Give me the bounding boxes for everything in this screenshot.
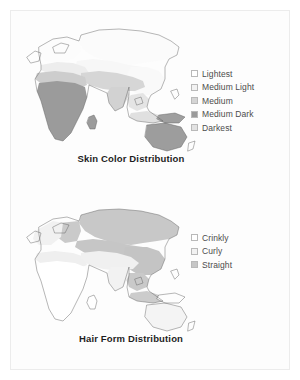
map-stage-hair-form: Crinkly Curly Straight [11, 193, 289, 333]
world-map-hair-form [19, 197, 209, 333]
legend-swatch-icon [191, 84, 198, 91]
figure-page-frame: Lightest Medium Light Medium Medium Dark… [10, 10, 290, 370]
legend-item[interactable]: Crinkly [191, 231, 277, 245]
legend-swatch-icon [191, 248, 198, 255]
legend-item[interactable]: Medium Dark [191, 108, 277, 122]
legend-swatch-icon [191, 261, 198, 268]
legend-item[interactable]: Lightest [191, 67, 277, 81]
legend-swatch-icon [191, 97, 198, 104]
world-map-skin-color [19, 17, 209, 153]
region-australia [145, 303, 187, 331]
legend-hair-form: Crinkly Curly Straight [191, 231, 277, 272]
region-northern-europe [39, 37, 81, 63]
map-regions-hair-form [33, 209, 187, 331]
region-southeast-asia [127, 93, 149, 111]
legend-item-label: Medium [202, 97, 233, 106]
legend-skin-color: Lightest Medium Light Medium Medium Dark… [191, 67, 277, 135]
region-southeast-asia [126, 273, 149, 291]
figure-skin-color: Lightest Medium Light Medium Medium Dark… [11, 13, 289, 188]
region-australia [145, 123, 187, 151]
figure-hair-form: Crinkly Curly Straight Hair Form Distrib… [11, 193, 289, 368]
legend-item-label: Medium Light [202, 83, 254, 92]
legend-item-label: Darkest [202, 124, 232, 133]
region-sub-saharan-africa [37, 81, 87, 141]
legend-item-label: Straight [202, 261, 232, 270]
legend-item[interactable]: Darkest [191, 121, 277, 135]
legend-swatch-icon [191, 234, 198, 241]
legend-swatch-icon [191, 70, 198, 77]
legend-item-label: Crinkly [202, 234, 229, 243]
region-sub-saharan-africa [37, 261, 87, 321]
legend-item-label: Medium Dark [202, 110, 254, 119]
region-india [107, 267, 129, 291]
legend-item[interactable]: Curly [191, 245, 277, 259]
legend-item[interactable]: Medium [191, 94, 277, 108]
legend-item[interactable]: Straight [191, 258, 277, 272]
legend-item-label: Lightest [202, 70, 233, 79]
region-india [107, 87, 129, 111]
figure-caption-skin-color: Skin Color Distribution [11, 153, 251, 164]
legend-item-label: Curly [202, 247, 222, 256]
legend-swatch-icon [191, 124, 198, 131]
legend-item[interactable]: Medium Light [191, 81, 277, 95]
map-regions-skin-color [35, 29, 187, 151]
figure-caption-hair-form: Hair Form Distribution [11, 333, 251, 344]
map-stage-skin-color: Lightest Medium Light Medium Medium Dark… [11, 13, 289, 153]
legend-swatch-icon [191, 111, 198, 118]
